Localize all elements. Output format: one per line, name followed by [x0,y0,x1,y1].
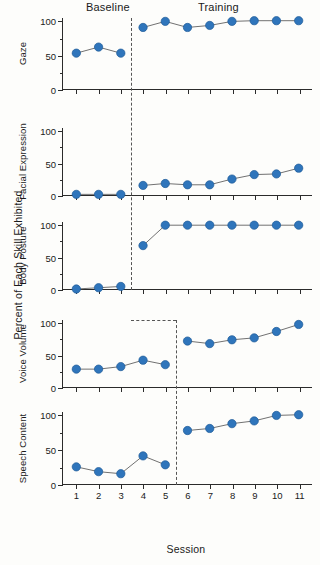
data-point [94,284,102,292]
x-tick [277,195,278,200]
data-point [250,334,258,342]
y-tick [58,485,63,486]
phase-change-line [131,18,132,290]
y-tick [58,90,63,91]
x-tick [76,484,77,489]
data-point [183,221,191,229]
series-line-training [188,324,299,343]
series-plot [63,128,312,195]
panel-label-facial-expression: Facial Expression [17,114,28,210]
series-plot [63,18,312,89]
data-point [183,23,191,31]
data-point [72,49,80,57]
data-point [206,21,214,29]
x-tick [166,89,167,94]
y-tick-label: 100 [40,220,56,231]
data-point [294,164,302,172]
data-point [228,420,236,428]
data-point [94,43,102,51]
y-tick-label: 50 [45,158,56,169]
data-point [72,463,80,471]
x-tick [188,89,189,94]
x-tick [188,484,189,489]
x-tick [277,289,278,294]
data-point [206,339,214,347]
x-tick [121,484,122,489]
y-tick-label: 0 [51,85,56,96]
x-tick [143,289,144,294]
x-tick-label: 3 [118,490,123,501]
y-tick-label: 100 [40,318,56,329]
x-tick [255,195,256,200]
x-tick [76,387,77,392]
data-point [94,468,102,476]
y-tick-label: 50 [45,445,56,456]
phase-label-training: Training [198,1,239,13]
x-tick [233,195,234,200]
x-tick [166,484,167,489]
x-tick [143,387,144,392]
x-tick [255,89,256,94]
x-tick-label: 10 [272,490,283,501]
x-tick [233,484,234,489]
data-point [139,181,147,189]
y-tick [58,196,63,197]
data-point [206,181,214,189]
x-tick-label: 1 [74,490,79,501]
data-point [250,17,258,25]
data-point [94,365,102,373]
x-axis-title: Session [0,543,320,555]
x-tick [255,289,256,294]
y-tick-label: 50 [45,50,56,61]
x-tick [99,89,100,94]
x-tick-label: 9 [252,490,257,501]
y-tick-label: 0 [51,285,56,296]
panel-label-body-posture: Body Posture [17,208,28,304]
x-tick [300,89,301,94]
data-point [228,175,236,183]
phase-change-line [176,320,177,485]
x-tick [210,484,211,489]
plot-area-body-posture: 050100 [62,222,312,290]
phase-label-baseline: Baseline [86,1,130,13]
data-point [117,470,125,478]
data-point [183,181,191,189]
x-tick [300,195,301,200]
series-plot [63,320,312,387]
data-point [228,221,236,229]
y-tick-label: 0 [51,480,56,491]
x-tick [121,89,122,94]
data-point [206,424,214,432]
y-tick-label: 100 [40,126,56,137]
x-tick [166,195,167,200]
phase-change-step [131,320,176,321]
x-tick-label: 5 [163,490,168,501]
data-point [250,221,258,229]
data-point [117,282,125,290]
plot-area-speech-content: 0501001234567891011 [62,412,312,485]
y-tick-label: 50 [45,252,56,263]
data-point [139,452,147,460]
data-point [294,17,302,25]
x-tick [166,289,167,294]
y-tick-label: 0 [51,383,56,394]
data-point [294,320,302,328]
plot-area-voice-volume: 050100 [62,320,312,388]
y-tick-label: 0 [51,191,56,202]
x-tick [300,484,301,489]
x-tick [188,387,189,392]
y-tick-label: 50 [45,350,56,361]
data-point [72,190,80,198]
x-tick [210,387,211,392]
x-tick [166,387,167,392]
x-tick [255,484,256,489]
x-tick [255,387,256,392]
plot-area-gaze: 050100 [62,18,312,90]
x-tick [277,484,278,489]
data-point [206,221,214,229]
plot-area-facial-expression: 050100 [62,128,312,196]
data-point [272,221,280,229]
x-tick [233,387,234,392]
series-plot [63,412,312,484]
x-tick-label: 7 [208,490,213,501]
